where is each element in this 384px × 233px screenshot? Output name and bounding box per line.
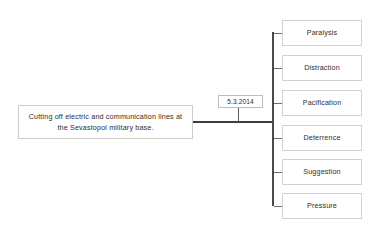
effect-label-deterrence: Deterrence — [303, 133, 340, 143]
effect-label-pacification: Pacification — [303, 98, 342, 108]
connector-source-to-trunk — [192, 121, 274, 123]
date-marker-box[interactable]: 5.3.2014 — [218, 95, 263, 108]
effect-box-deterrence[interactable]: Deterrence — [282, 125, 362, 151]
effect-box-distraction[interactable]: Distraction — [282, 55, 362, 81]
effect-label-pressure: Pressure — [307, 201, 337, 211]
effect-box-pacification[interactable]: Pacification — [282, 90, 362, 116]
diagram-canvas: Cutting off electric and communication l… — [0, 0, 384, 233]
effect-label-distraction: Distraction — [304, 63, 340, 73]
date-marker-label: 5.3.2014 — [227, 97, 253, 107]
effect-box-pressure[interactable]: Pressure — [282, 193, 362, 219]
source-event-box[interactable]: Cutting off electric and communication l… — [18, 105, 193, 139]
effect-box-suggestion[interactable]: Suggestion — [282, 159, 362, 185]
effect-box-paralysis[interactable]: Paralysis — [282, 20, 362, 46]
effect-label-suggestion: Suggestion — [303, 167, 340, 177]
connector-date-tick — [238, 107, 239, 122]
effect-label-paralysis: Paralysis — [307, 28, 338, 38]
source-event-label: Cutting off electric and communication l… — [19, 111, 192, 133]
connector-vertical-trunk — [272, 32, 274, 206]
